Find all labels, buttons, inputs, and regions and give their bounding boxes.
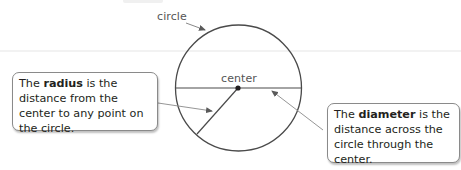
radius-callout-arrow <box>158 103 212 111</box>
circle-label: circle <box>157 10 187 23</box>
center-point <box>235 85 240 90</box>
diameter-term: diameter <box>358 108 415 121</box>
radius-line <box>197 88 238 134</box>
radius-term: radius <box>43 77 83 90</box>
diameter-callout-prefix: The <box>334 108 358 121</box>
diameter-callout-arrow <box>272 91 323 130</box>
circle-label-arrow <box>186 23 205 30</box>
radius-callout: The radius is the distance from the cent… <box>12 72 158 131</box>
diameter-callout: The diameter is the distance across the … <box>327 103 460 163</box>
center-label: center <box>221 72 257 85</box>
radius-callout-prefix: The <box>19 77 43 90</box>
